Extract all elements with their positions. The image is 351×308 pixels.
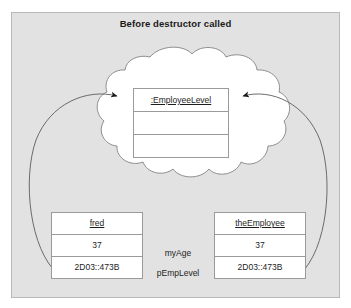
- member-label-pemplevel: pEmpLevel: [143, 268, 213, 278]
- stack-object-fred: fred 37 2D03::473B: [51, 212, 143, 279]
- heap-object-attribute-row-2: [134, 135, 228, 157]
- fred-object-name: fred: [52, 213, 142, 235]
- heap-object-box: :EmployeeLevel: [133, 88, 229, 158]
- fred-pemplevel-value: 2D03::473B: [52, 257, 142, 278]
- heap-object-attribute-row-1: [134, 112, 228, 135]
- fred-myage-value: 37: [52, 235, 142, 257]
- heap-object-name: :EmployeeLevel: [134, 89, 228, 112]
- theemployee-object-name: theEmployee: [215, 213, 305, 235]
- theemployee-pemplevel-value: 2D03::473B: [215, 257, 305, 278]
- member-label-myage: myAge: [143, 248, 213, 258]
- theemployee-myage-value: 37: [215, 235, 305, 257]
- stack-object-theemployee: theEmployee 37 2D03::473B: [214, 212, 306, 279]
- page-title: Before destructor called: [0, 18, 351, 29]
